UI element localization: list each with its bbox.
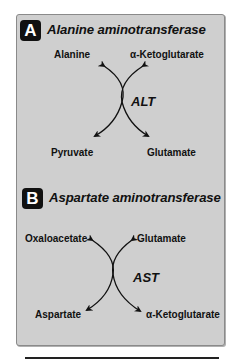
panel-a-crossed-arrows-icon	[95, 66, 148, 136]
bottom-rule-divider	[25, 357, 219, 359]
panel-b-crossed-arrows-icon	[87, 240, 140, 311]
reaction-arrows	[0, 0, 233, 360]
